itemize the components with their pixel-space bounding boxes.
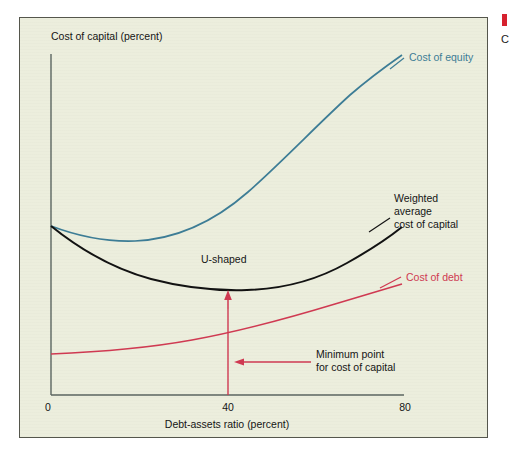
caption-text-fragment: C [501,33,509,45]
series-label-cost-of-equity: Cost of equity [409,51,474,63]
annotation-minimum-point-line1: Minimum point [316,348,384,360]
leader-line-cost-of-equity [390,58,404,69]
x-tick-label-0: 0 [45,401,51,413]
chart-plot-area: Cost of capital (percent) Cost of equity… [20,18,489,439]
chart-panel: Cost of capital (percent) Cost of equity… [19,17,488,438]
series-label-cost-of-debt: Cost of debt [406,271,463,283]
series-label-weighted-average-line3: cost of capital [394,218,458,230]
caption-stub: C [500,14,515,74]
annotation-u-shaped: U-shaped [201,253,247,265]
leader-line-cost-of-debt [380,277,401,288]
leader-arrow-head-minimum-point [234,358,244,365]
leader-line-weighted-average [369,218,390,232]
figure-page: C [0,0,515,452]
series-curve-cost-of-equity [51,55,402,241]
minimum-point-arrow-head [224,290,232,300]
y-axis-title: Cost of capital (percent) [51,30,162,42]
x-axis-title: Debt-assets ratio (percent) [165,418,289,430]
caption-color-marker [502,14,507,26]
annotation-minimum-point-line2: for cost of capital [316,361,395,373]
x-tick-label-80: 80 [399,401,411,413]
series-label-weighted-average-line2: average [394,205,432,217]
series-label-weighted-average-line1: Weighted [394,192,438,204]
x-tick-label-40: 40 [222,401,234,413]
